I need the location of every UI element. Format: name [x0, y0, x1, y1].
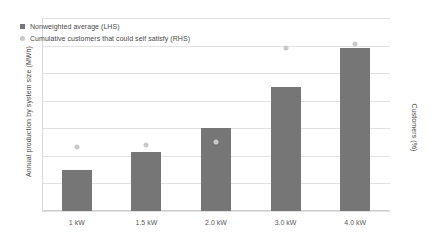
- bar: [340, 48, 370, 211]
- bar: [62, 170, 92, 211]
- gridline: [42, 18, 390, 19]
- y-axis-left-title: Annual production by system size (MWh): [25, 32, 32, 192]
- legend-item-nonweighted-average: Nonweighted average (LHS): [20, 23, 190, 30]
- scatter-point: [353, 41, 358, 46]
- legend-label: Nonweighted average (LHS): [30, 23, 120, 30]
- circle-marker-icon: [20, 36, 25, 41]
- gridline: [42, 211, 390, 212]
- x-axis-tick-label: 1 kW: [69, 219, 85, 226]
- legend-item-cumulative-customers: Cumulative customers that could self sat…: [20, 35, 190, 42]
- chart-figure: Annual production by system size (MWh) C…: [0, 0, 437, 237]
- bar: [271, 87, 301, 211]
- x-axis-tick-label: 4.0 kW: [344, 219, 366, 226]
- gridline: [42, 101, 390, 102]
- x-axis-tick-label: 1.5 kW: [135, 219, 157, 226]
- scatter-point: [214, 140, 219, 145]
- gridline: [42, 73, 390, 74]
- scatter-point: [283, 46, 288, 51]
- square-marker-icon: [20, 24, 25, 29]
- bar: [131, 152, 161, 211]
- x-axis-tick-label: 3.0 kW: [275, 219, 297, 226]
- scatter-point: [144, 142, 149, 147]
- legend-label: Cumulative customers that could self sat…: [30, 35, 190, 42]
- x-axis-tick-label: 2.0 kW: [205, 219, 227, 226]
- scatter-point: [74, 144, 79, 149]
- y-axis-right-title: Customers (%): [411, 73, 418, 183]
- chart-legend: Nonweighted average (LHS) Cumulative cus…: [20, 23, 190, 47]
